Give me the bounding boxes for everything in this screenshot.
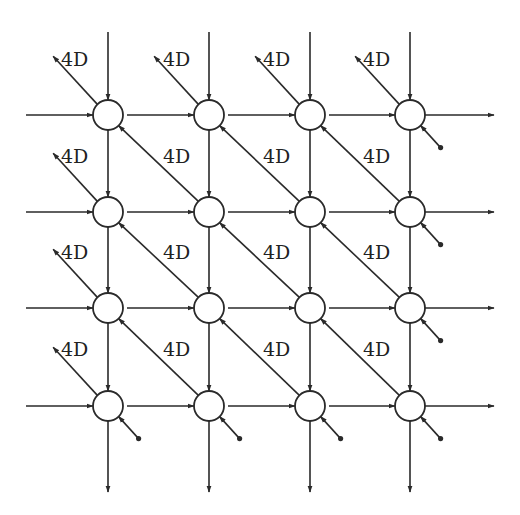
delay-label: 4D <box>163 145 190 167</box>
delay-label: 4D <box>363 145 390 167</box>
input-terminal-dot <box>338 436 343 441</box>
processing-element-node <box>194 100 224 130</box>
processing-element-node <box>194 391 224 421</box>
processing-element-node <box>395 293 425 323</box>
delay-label: 4D <box>163 338 190 360</box>
diagonal-input-stub <box>321 417 341 439</box>
input-terminal-dot <box>237 436 242 441</box>
diagonal-input-stub <box>421 417 441 439</box>
delay-label: 4D <box>61 241 88 263</box>
diagonal-input-stub <box>119 417 139 439</box>
processing-element-node <box>395 391 425 421</box>
systolic-array-diagram: 4D4D4D4D4D4D4D4D4D4D4D4D4D4D4D4D <box>0 0 520 515</box>
delay-label: 4D <box>363 338 390 360</box>
processing-element-node <box>194 197 224 227</box>
processing-element-node <box>395 197 425 227</box>
diagonal-input-stub <box>421 223 441 245</box>
delay-label: 4D <box>363 241 390 263</box>
processing-element-node <box>194 293 224 323</box>
edges-layer <box>26 32 494 492</box>
delay-label: 4D <box>263 48 290 70</box>
processing-element-node <box>295 391 325 421</box>
processing-element-node <box>295 197 325 227</box>
processing-element-node <box>295 100 325 130</box>
delay-label: 4D <box>61 338 88 360</box>
delay-label: 4D <box>363 48 390 70</box>
processing-element-node <box>93 391 123 421</box>
diagonal-input-stub <box>421 126 441 148</box>
input-terminal-dot <box>438 242 443 247</box>
processing-element-node <box>395 100 425 130</box>
processing-element-node <box>93 293 123 323</box>
processing-element-node <box>295 293 325 323</box>
delay-label: 4D <box>263 145 290 167</box>
delay-label: 4D <box>163 48 190 70</box>
processing-element-node <box>93 197 123 227</box>
input-terminal-dot <box>438 436 443 441</box>
delay-label: 4D <box>61 48 88 70</box>
delay-label: 4D <box>263 338 290 360</box>
delay-label: 4D <box>163 241 190 263</box>
input-terminal-dot <box>438 145 443 150</box>
delay-label: 4D <box>263 241 290 263</box>
input-terminal-dot <box>136 436 141 441</box>
diagonal-input-stub <box>220 417 240 439</box>
delay-label: 4D <box>61 145 88 167</box>
diagonal-input-stub <box>421 319 441 341</box>
processing-element-node <box>93 100 123 130</box>
input-terminal-dot <box>438 338 443 343</box>
